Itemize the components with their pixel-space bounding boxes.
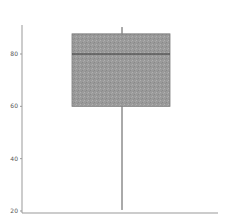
y-tick-label: 20	[10, 207, 18, 214]
box-plot-chart: 20406080	[0, 0, 231, 222]
box-plot-item	[72, 27, 170, 210]
y-axis: 20406080	[10, 25, 22, 214]
box-group	[72, 27, 170, 210]
iqr-box	[72, 34, 170, 106]
y-tick-label: 40	[10, 155, 18, 162]
y-tick-label: 80	[10, 50, 18, 57]
y-tick-label: 60	[10, 102, 18, 109]
